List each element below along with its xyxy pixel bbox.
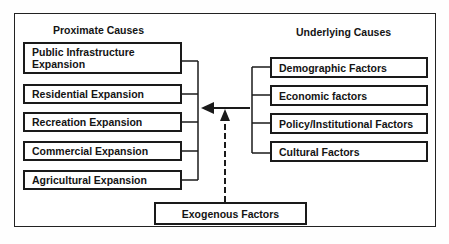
connector-lines	[0, 0, 449, 244]
dashed-arrowhead-icon	[220, 109, 230, 121]
solid-arrowhead-icon	[201, 102, 214, 114]
